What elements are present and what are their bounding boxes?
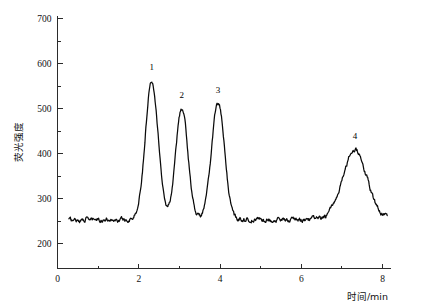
- x-axis: 02468: [55, 264, 391, 284]
- x-tick-label: 6: [299, 274, 304, 284]
- trace-path: [69, 82, 387, 223]
- y-axis-title: 荧光强度: [13, 122, 24, 162]
- y-tick-label: 600: [37, 59, 52, 69]
- y-tick-label: 300: [37, 194, 52, 204]
- chromatogram-figure: 200300400500600700 02468 1234 荧光强度 时间/mi…: [0, 0, 432, 308]
- fluorescence-trace: [69, 82, 387, 223]
- chart-canvas: 200300400500600700 02468 1234 荧光强度 时间/mi…: [0, 0, 432, 308]
- peak-label-2: 2: [180, 90, 185, 100]
- x-axis-title: 时间/min: [347, 291, 388, 302]
- y-tick-label: 200: [37, 239, 52, 249]
- y-axis: 200300400500600700: [37, 14, 62, 269]
- y-tick-label: 500: [37, 104, 52, 114]
- y-tick-label: 700: [37, 14, 52, 24]
- peak-label-3: 3: [216, 85, 221, 95]
- peak-label-1: 1: [150, 62, 155, 72]
- y-tick-label: 400: [37, 149, 52, 159]
- peak-label-4: 4: [353, 131, 358, 141]
- x-tick-label: 8: [380, 274, 385, 284]
- x-tick-label: 4: [218, 274, 223, 284]
- peak-labels: 1234: [150, 62, 358, 141]
- x-tick-label: 2: [136, 274, 141, 284]
- x-tick-label: 0: [55, 274, 60, 284]
